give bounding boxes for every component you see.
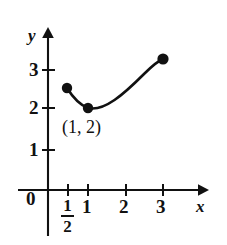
graph-figure: y x 0 3 2 1 1 2 1 2 3 (1, 2)	[0, 0, 227, 245]
y-tick-label-1: 1	[29, 140, 39, 159]
data-points	[62, 53, 169, 113]
x-axis	[18, 184, 209, 196]
y-axis	[42, 27, 54, 236]
x-tick-label-half: 1 2	[61, 197, 74, 236]
data-point-right-endpoint	[157, 53, 168, 64]
y-axis-arrow-icon	[42, 27, 54, 38]
origin-label: 0	[26, 189, 36, 208]
fraction-numerator: 1	[63, 197, 72, 214]
y-tick-label-3: 3	[29, 60, 39, 79]
y-axis-label: y	[28, 27, 36, 44]
x-tick-label-3: 3	[156, 197, 166, 216]
data-point-left-endpoint	[62, 83, 72, 93]
curve-path	[67, 59, 163, 109]
data-point-minimum	[83, 103, 93, 113]
x-axis-label: x	[196, 198, 205, 215]
x-axis-arrow-icon	[198, 184, 209, 196]
minimum-point-annotation: (1, 2)	[62, 118, 101, 136]
y-tick-label-2: 2	[29, 98, 39, 117]
x-tick-label-1: 1	[82, 197, 92, 216]
x-tick-label-2: 2	[119, 197, 129, 216]
fraction-denominator: 2	[63, 218, 72, 235]
